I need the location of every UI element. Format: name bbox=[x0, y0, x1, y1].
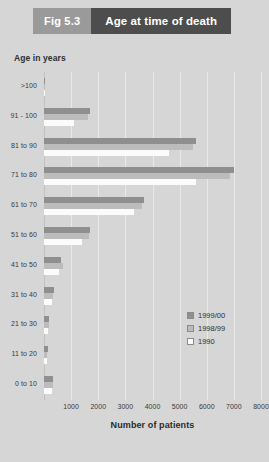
figure-number-badge: Fig 5.3 bbox=[33, 8, 91, 34]
bar-group bbox=[44, 132, 261, 162]
bar bbox=[44, 209, 134, 215]
y-axis-tick-label: 41 to 50 bbox=[11, 261, 37, 268]
figure-title: Age at time of death bbox=[91, 8, 231, 34]
bar-groups bbox=[44, 72, 261, 400]
gridline bbox=[261, 72, 262, 400]
y-axis-tick-label: 91 - 100 bbox=[11, 112, 38, 119]
y-axis-tick-label: 21 to 30 bbox=[11, 320, 37, 327]
bar bbox=[44, 388, 52, 394]
bar bbox=[44, 239, 82, 245]
bar-group bbox=[44, 281, 261, 311]
y-axis-tick-label: 51 to 60 bbox=[11, 231, 37, 238]
x-axis-tick-labels: 10002000300040005000600070008000 bbox=[44, 403, 261, 417]
plot-area bbox=[44, 72, 261, 400]
bar-group bbox=[44, 191, 261, 221]
bar bbox=[44, 150, 169, 156]
bar-group bbox=[44, 72, 261, 102]
x-axis-tick-label: 5000 bbox=[172, 403, 188, 410]
bar-group bbox=[44, 251, 261, 281]
y-axis-tick-label: >100 bbox=[21, 82, 37, 89]
x-axis-tick-label: 2000 bbox=[90, 403, 106, 410]
legend-label: 1999/00 bbox=[198, 311, 225, 320]
y-axis-tick-label: 31 to 40 bbox=[11, 291, 37, 298]
x-axis-tick-label: 8000 bbox=[253, 403, 269, 410]
y-axis-tick-label: 61 to 70 bbox=[11, 201, 37, 208]
legend-label: 1998/99 bbox=[198, 324, 225, 333]
bar bbox=[44, 299, 52, 305]
bar-group bbox=[44, 370, 261, 400]
legend-swatch bbox=[187, 312, 194, 319]
legend-swatch bbox=[187, 338, 194, 345]
bar bbox=[44, 179, 196, 185]
y-axis-tick-label: 81 to 90 bbox=[11, 142, 37, 149]
legend-item: 1998/99 bbox=[187, 323, 257, 334]
x-axis-tick-label: 1000 bbox=[63, 403, 79, 410]
figure-page: Fig 5.3 Age at time of death Age in year… bbox=[0, 0, 269, 462]
x-axis-tick-label: 7000 bbox=[226, 403, 242, 410]
figure-header: Fig 5.3 Age at time of death bbox=[33, 8, 231, 34]
chart-legend: 1999/001998/991990 bbox=[187, 310, 257, 349]
y-axis-tick-label: 71 to 80 bbox=[11, 171, 37, 178]
x-axis-tick-label: 3000 bbox=[118, 403, 134, 410]
legend-label: 1990 bbox=[198, 337, 215, 346]
bar bbox=[44, 328, 48, 334]
y-axis-tick-label: 11 to 20 bbox=[11, 350, 37, 357]
legend-swatch bbox=[187, 325, 194, 332]
bar bbox=[44, 358, 47, 364]
y-axis-title: Age in years bbox=[14, 53, 66, 63]
bar bbox=[44, 120, 74, 126]
y-axis-tick-labels: >10091 - 10081 to 9071 to 8061 to 7051 t… bbox=[0, 72, 41, 400]
bar bbox=[44, 269, 59, 275]
x-axis-tick-label: 6000 bbox=[199, 403, 215, 410]
legend-item: 1999/00 bbox=[187, 310, 257, 321]
bar-group bbox=[44, 102, 261, 132]
y-axis-tick-label: 0 to 10 bbox=[15, 380, 37, 387]
chart-container: Age in years >10091 - 10081 to 9071 to 8… bbox=[0, 44, 269, 462]
legend-item: 1990 bbox=[187, 336, 257, 347]
x-axis-tick-label: 4000 bbox=[145, 403, 161, 410]
x-axis-title: Number of patients bbox=[44, 420, 261, 430]
bar-group bbox=[44, 161, 261, 191]
bar-group bbox=[44, 221, 261, 251]
